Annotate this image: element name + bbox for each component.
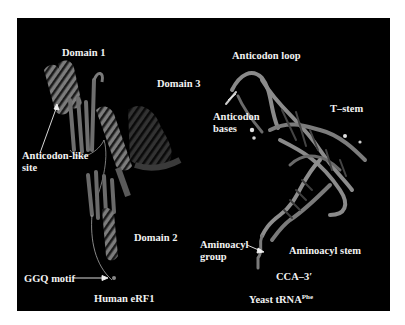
anticodon-like-site-label-line2: site (22, 162, 37, 173)
domain2-helix (102, 208, 118, 261)
erf1-structure (44, 61, 180, 280)
anticodon-like-arrow (40, 106, 57, 153)
domain1-label: Domain 1 (62, 47, 105, 58)
anticodon-bases-label-line1: Anticodon (213, 111, 260, 122)
ggq-motif-label: GGQ motif (24, 273, 75, 284)
anticodon-bases-label-line2: bases (213, 123, 237, 134)
t-stem-label: T–stem (330, 103, 363, 114)
anticodon-bases-arrow (228, 94, 236, 100)
trna-caption-main: Yeast tRNA (249, 294, 302, 305)
anticodon-like-site-label-line1: Anticodon-like (22, 150, 89, 161)
cca-3-prime-label: CCA–3′ (276, 271, 312, 282)
central-helix (96, 107, 132, 171)
erf1-caption: Human eRF1 (94, 293, 154, 304)
aminoacyl-stem-label: Aminoacyl stem (289, 245, 361, 256)
aminoacyl-group-label-line2: group (200, 251, 227, 262)
trna-caption-superscript: Phe (302, 293, 313, 301)
domain2-label: Domain 2 (134, 232, 177, 243)
aminoacyl-group-label-line1: Aminoacyl (200, 239, 248, 250)
trna-caption: Yeast tRNAPhe (249, 294, 313, 305)
domain3-label: Domain 3 (157, 78, 200, 89)
anticodon-loop-label: Anticodon loop (232, 50, 301, 61)
